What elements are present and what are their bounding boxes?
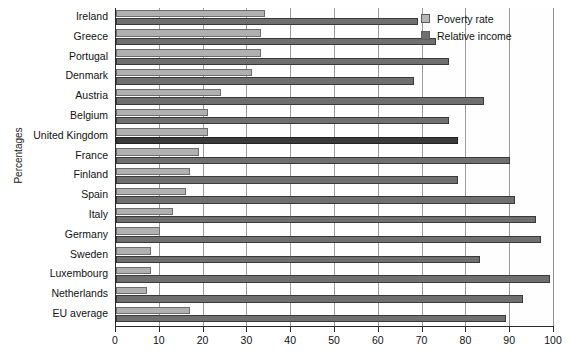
bar-poverty-rate xyxy=(116,168,190,175)
x-tick xyxy=(115,327,116,332)
category-label: Austria xyxy=(75,89,108,101)
bar-relative-income xyxy=(116,216,536,223)
category-label: Greece xyxy=(74,30,108,42)
bar-relative-income xyxy=(116,18,418,25)
legend-label: Poverty rate xyxy=(437,13,494,25)
x-tick-label: 0 xyxy=(112,334,118,346)
bar-row: Finland xyxy=(0,166,569,186)
x-tick xyxy=(509,327,510,332)
bar-relative-income xyxy=(116,236,541,243)
x-tick xyxy=(465,327,466,332)
bar-relative-income xyxy=(116,196,515,203)
category-label: Spain xyxy=(81,188,108,200)
bar-poverty-rate xyxy=(116,10,265,17)
category-label: Finland xyxy=(74,168,108,180)
bar-poverty-rate xyxy=(116,227,160,234)
bar-relative-income xyxy=(116,256,480,263)
bar-poverty-rate xyxy=(116,148,199,155)
bar-poverty-rate xyxy=(116,49,261,56)
bar-poverty-rate xyxy=(116,109,208,116)
bar-poverty-rate xyxy=(116,247,151,254)
category-label: Germany xyxy=(65,228,108,240)
x-tick-label: 10 xyxy=(153,334,165,346)
legend-item: Relative income xyxy=(421,28,561,43)
bar-relative-income xyxy=(116,137,458,144)
bar-poverty-rate xyxy=(116,307,190,314)
bar-poverty-rate xyxy=(116,89,221,96)
bar-row: United Kingdom xyxy=(0,127,569,147)
category-label: EU average xyxy=(53,307,108,319)
x-tick xyxy=(159,327,160,332)
x-tick xyxy=(334,327,335,332)
bar-row: Portugal xyxy=(0,48,569,68)
x-axis-line xyxy=(115,326,554,327)
bar-poverty-rate xyxy=(116,29,261,36)
x-tick-label: 30 xyxy=(241,334,253,346)
x-tick xyxy=(290,327,291,332)
category-label: Netherlands xyxy=(51,287,108,299)
x-tick xyxy=(203,327,204,332)
bar-relative-income xyxy=(116,315,506,322)
dark-gray-swatch xyxy=(421,31,430,40)
bar-row: Netherlands xyxy=(0,285,569,305)
x-tick xyxy=(378,327,379,332)
category-label: Belgium xyxy=(70,109,108,121)
x-tick xyxy=(422,327,423,332)
x-tick-label: 50 xyxy=(328,334,340,346)
bar-poverty-rate xyxy=(116,208,173,215)
bar-row: Luxembourg xyxy=(0,265,569,285)
bar-relative-income xyxy=(116,157,510,164)
legend-item: Poverty rate xyxy=(421,11,561,26)
bar-poverty-rate xyxy=(116,267,151,274)
bar-row: Denmark xyxy=(0,67,569,87)
bar-row: Sweden xyxy=(0,246,569,266)
bar-relative-income xyxy=(116,38,436,45)
bar-relative-income xyxy=(116,295,523,302)
x-tick xyxy=(553,327,554,332)
bar-poverty-rate xyxy=(116,128,208,135)
bar-relative-income xyxy=(116,176,458,183)
x-tick xyxy=(246,327,247,332)
category-label: France xyxy=(75,149,108,161)
bar-poverty-rate xyxy=(116,69,252,76)
light-gray-swatch xyxy=(421,14,430,23)
legend: Poverty rateRelative income xyxy=(421,11,561,45)
bar-relative-income xyxy=(116,77,414,84)
category-label: United Kingdom xyxy=(33,129,108,141)
bar-row: France xyxy=(0,147,569,167)
bar-poverty-rate xyxy=(116,188,186,195)
x-tick-label: 70 xyxy=(416,334,428,346)
category-label: Italy xyxy=(89,208,108,220)
category-label: Portugal xyxy=(69,50,108,62)
x-tick-label: 40 xyxy=(284,334,296,346)
category-label: Luxembourg xyxy=(50,267,108,279)
x-tick-label: 20 xyxy=(197,334,209,346)
bar-row: EU average xyxy=(0,305,569,325)
bar-row: Belgium xyxy=(0,107,569,127)
bar-chart: Percentages 0102030405060708090100 Irela… xyxy=(0,0,569,355)
category-label: Denmark xyxy=(65,69,108,81)
legend-label: Relative income xyxy=(437,30,512,42)
bar-row: Austria xyxy=(0,87,569,107)
bar-poverty-rate xyxy=(116,287,147,294)
x-tick-label: 80 xyxy=(460,334,472,346)
category-label: Sweden xyxy=(70,248,108,260)
bar-relative-income xyxy=(116,97,484,104)
x-tick-label: 60 xyxy=(372,334,384,346)
bar-relative-income xyxy=(116,58,449,65)
bar-row: Germany xyxy=(0,226,569,246)
bar-relative-income xyxy=(116,275,550,282)
bar-row: Spain xyxy=(0,186,569,206)
x-tick-label: 100 xyxy=(544,334,562,346)
bar-relative-income xyxy=(116,117,449,124)
bar-row: Italy xyxy=(0,206,569,226)
x-tick-label: 90 xyxy=(503,334,515,346)
category-label: Ireland xyxy=(76,10,108,22)
